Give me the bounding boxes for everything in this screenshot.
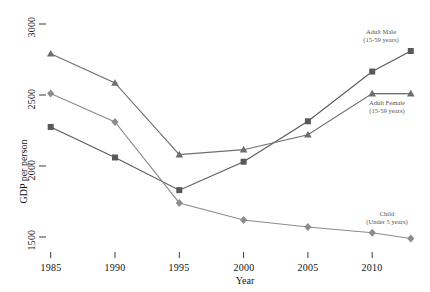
data-point-marker-triangle [47, 50, 55, 57]
annotation-child: Child (Under 5 years) [355, 210, 419, 225]
annotation-child-sublabel: (Under 5 years) [355, 218, 419, 226]
data-point-marker-square [48, 124, 54, 130]
series-line [51, 51, 411, 190]
data-point-marker-triangle [111, 79, 119, 86]
x-axis-ticks [51, 252, 373, 258]
data-point-marker-square [176, 187, 182, 193]
series-adult-male [48, 48, 414, 193]
annotation-adult-male-label: Adult Male [366, 28, 396, 35]
data-point-marker-diamond [240, 216, 247, 224]
annotation-adult-female: Adult Female (15-59 years) [355, 99, 419, 114]
y-axis-ticks [39, 24, 46, 237]
data-point-marker-diamond [407, 234, 414, 242]
annotation-adult-male: Adult Male (15-59 years) [351, 28, 411, 43]
annotation-adult-male-sublabel: (15-59 years) [351, 36, 411, 44]
annotation-child-label: Child [380, 210, 395, 217]
data-point-marker-square [241, 159, 247, 165]
data-point-marker-square [112, 154, 118, 160]
chart-container: 3000 2500 2000 1500 GDP per person 1985 … [0, 0, 430, 292]
data-point-marker-diamond [304, 223, 311, 231]
annotation-adult-female-label: Adult Female [369, 99, 405, 106]
plot-area [0, 0, 430, 292]
data-point-marker-diamond [47, 90, 54, 98]
data-point-marker-diamond [369, 229, 376, 237]
annotation-adult-female-sublabel: (15-59 years) [355, 107, 419, 115]
data-point-marker-square [305, 118, 311, 124]
data-point-marker-triangle [304, 131, 312, 138]
data-point-marker-square [369, 69, 375, 75]
data-point-marker-square [408, 48, 414, 54]
